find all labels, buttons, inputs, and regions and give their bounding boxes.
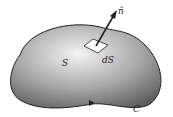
- surface-s: [11, 25, 161, 108]
- surface-diagram: n̂ S dS C: [0, 0, 173, 117]
- normal-arrowhead-icon: [110, 10, 117, 19]
- boundary-label: C: [133, 104, 140, 114]
- normal-label: n̂: [118, 6, 124, 16]
- surface-label: S: [62, 58, 68, 68]
- area-element-label: dS: [102, 55, 114, 65]
